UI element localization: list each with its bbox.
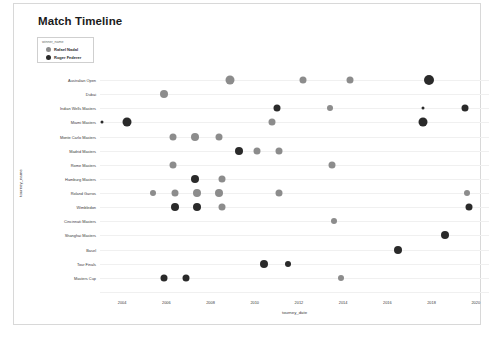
x-axis-tick-label: 2004: [118, 300, 127, 305]
x-axis-tick-label: 2018: [427, 300, 436, 305]
data-point[interactable]: [216, 133, 223, 140]
legend-item-1[interactable]: Rafael Nadal: [42, 46, 90, 53]
y-axis-tick-label: Hamburg Masters: [65, 176, 96, 181]
y-axis-tick-label: Rome Masters: [71, 162, 96, 167]
gridline: [100, 235, 489, 236]
data-point[interactable]: [285, 261, 291, 267]
legend-item-2[interactable]: Roger Federer: [42, 54, 90, 61]
data-point[interactable]: [191, 133, 199, 141]
y-axis-title: tourney_name: [18, 169, 23, 196]
data-point[interactable]: [421, 107, 424, 110]
chart-legend: winner_name Rafael NadalRoger Federer: [37, 37, 94, 63]
data-point[interactable]: [101, 121, 104, 124]
data-point[interactable]: [235, 147, 243, 155]
y-axis-tick-label: Cincinnati Masters: [64, 219, 96, 224]
data-point[interactable]: [169, 133, 176, 140]
page-title: Match Timeline: [38, 15, 122, 27]
y-axis-tick-label: Madrid Masters: [69, 148, 96, 153]
gridline: [100, 250, 489, 251]
y-axis-tick-label: Miami Masters: [71, 120, 96, 125]
gridline: [100, 94, 489, 95]
circle-marker-icon: [46, 47, 51, 52]
gridline: [100, 108, 489, 109]
y-axis-tick-label: Indian Wells Masters: [60, 106, 96, 111]
data-point[interactable]: [171, 203, 179, 211]
data-point[interactable]: [418, 118, 427, 127]
data-point[interactable]: [464, 190, 470, 196]
legend-title: winner_name: [42, 40, 90, 45]
gridline: [100, 137, 489, 138]
scatter-plot-area: [100, 70, 489, 296]
x-axis-tick-label: 2008: [206, 300, 215, 305]
y-axis-tick-label: Wimbledon: [77, 205, 96, 210]
data-point[interactable]: [338, 275, 344, 281]
data-point[interactable]: [191, 175, 199, 183]
y-axis-tick-label: Basel: [86, 247, 96, 252]
legend-item-label: Rafael Nadal: [54, 47, 78, 52]
y-axis-labels: Australian OpenDubaiIndian Wells Masters…: [14, 70, 96, 296]
legend-entries: Rafael NadalRoger Federer: [42, 46, 90, 61]
data-point[interactable]: [150, 190, 156, 196]
gridline: [100, 207, 489, 208]
screenshot-root: Match Timeline winner_name Rafael NadalR…: [0, 0, 495, 338]
data-point[interactable]: [193, 203, 201, 211]
gridline: [100, 122, 489, 123]
x-axis-tick-label: 2012: [295, 300, 304, 305]
y-axis-tick-label: Dubai: [86, 92, 96, 97]
x-axis-tick-label: 2016: [383, 300, 392, 305]
data-point[interactable]: [466, 204, 473, 211]
gridline: [100, 179, 489, 180]
y-axis-tick-label: Monte Carlo Masters: [60, 134, 96, 139]
gridline: [100, 165, 489, 166]
data-point[interactable]: [273, 105, 280, 112]
data-point[interactable]: [226, 76, 235, 85]
chart-card: Match Timeline winner_name Rafael NadalR…: [13, 3, 481, 325]
data-point[interactable]: [441, 231, 449, 239]
gridline: [100, 193, 489, 194]
y-axis-tick-label: Roland Garros: [71, 191, 96, 196]
data-point[interactable]: [172, 190, 179, 197]
data-point[interactable]: [160, 90, 168, 98]
x-axis-title: tourney_date: [100, 310, 489, 315]
x-axis-tick-label: 2014: [339, 300, 348, 305]
data-point[interactable]: [183, 274, 190, 281]
data-point[interactable]: [260, 260, 268, 268]
data-point[interactable]: [169, 161, 176, 168]
data-point[interactable]: [215, 189, 223, 197]
gridline: [100, 292, 489, 293]
x-axis-tick-label: 2020: [471, 300, 480, 305]
data-point[interactable]: [327, 105, 333, 111]
data-point[interactable]: [161, 274, 168, 281]
data-point[interactable]: [253, 147, 260, 154]
circle-marker-icon: [46, 55, 51, 60]
x-axis-ticks: 200420062008201020122014201620182020: [100, 300, 489, 310]
data-point[interactable]: [218, 204, 225, 211]
y-axis-tick-label: Shanghai Masters: [65, 233, 96, 238]
gridline: [100, 278, 489, 279]
data-point[interactable]: [276, 147, 283, 154]
x-axis-tick-label: 2010: [250, 300, 259, 305]
data-point[interactable]: [300, 77, 307, 84]
gridline: [100, 221, 489, 222]
data-point[interactable]: [276, 190, 283, 197]
data-point[interactable]: [461, 105, 468, 112]
data-point[interactable]: [331, 218, 337, 224]
y-axis-tick-label: Masters Cup: [74, 275, 96, 280]
legend-item-label: Roger Federer: [54, 55, 81, 60]
y-axis-tick-label: Tour Finals: [77, 261, 96, 266]
data-point[interactable]: [346, 77, 353, 84]
data-point[interactable]: [122, 118, 131, 127]
data-point[interactable]: [269, 119, 276, 126]
data-point[interactable]: [329, 161, 336, 168]
data-point[interactable]: [193, 189, 201, 197]
data-point[interactable]: [218, 175, 225, 182]
y-axis-tick-label: Australian Open: [68, 78, 96, 83]
gridline: [100, 151, 489, 152]
gridline: [100, 264, 489, 265]
data-point[interactable]: [424, 75, 434, 85]
data-point[interactable]: [394, 246, 402, 254]
x-axis-tick-label: 2006: [162, 300, 171, 305]
